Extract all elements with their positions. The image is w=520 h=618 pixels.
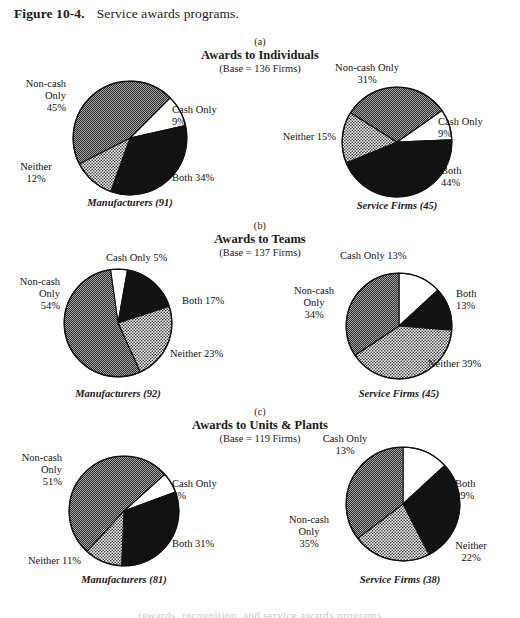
section-base-b: (Base = 137 Firms)	[0, 247, 520, 259]
section-title-b: Awards to Teams	[0, 232, 520, 247]
pie-svg-b-manufacturers	[63, 268, 173, 378]
pie-chart-a-manufacturers	[72, 80, 188, 196]
pie-label-c-man-noncash: Non-cashOnly51%	[2, 452, 62, 489]
figure-page: Figure 10-4.Service awards programs. (a)…	[0, 0, 520, 618]
pie-svg-a-manufacturers	[72, 80, 188, 196]
pie-caption-b-manufacturers: Manufacturers (92)	[48, 388, 188, 399]
pie-caption-a-manufacturers: Manufacturers (91)	[60, 197, 200, 208]
section-letter-c: (c)	[0, 406, 520, 418]
pie-chart-b-manufacturers	[63, 268, 173, 378]
pie-chart-c-manufacturers	[68, 455, 180, 567]
section-title-c: Awards to Units & Plants	[0, 418, 520, 433]
section-header-c: (c) Awards to Units & Plants (Base = 119…	[0, 406, 520, 445]
section-letter-a: (a)	[0, 36, 520, 48]
pie-label-a-svc-cash: Cash Only9%	[438, 116, 483, 140]
pie-label-c-svc-both: Both29%	[455, 478, 475, 502]
pie-label-c-man-both: Both 31%	[172, 538, 214, 550]
pie-caption-c-manufacturers: Manufacturers (81)	[54, 574, 194, 585]
pie-label-a-svc-both: Both44%	[441, 165, 461, 189]
pie-label-b-man-neither: Neither 23%	[170, 348, 223, 360]
pie-label-b-svc-both: Both13%	[456, 288, 476, 312]
pie-label-b-man-both: Both 17%	[182, 295, 224, 307]
pie-label-a-man-noncash: Non-cashOnly45%	[4, 78, 66, 115]
pie-label-b-man-cash: Cash Only 5%	[106, 252, 167, 264]
pie-label-a-man-neither: Neither12%	[8, 161, 64, 185]
pie-caption-a-service: Service Firms (45)	[327, 200, 467, 211]
pie-label-b-man-noncash: Non-cashOnly54%	[2, 276, 60, 313]
section-header-a: (a) Awards to Individuals (Base = 136 Fi…	[0, 36, 520, 75]
pie-label-a-man-cash: Cash Only9%	[172, 104, 217, 128]
pie-label-c-man-neither: Neither 11%	[28, 555, 81, 567]
section-base-a: (Base = 136 Firms)	[0, 63, 520, 75]
pie-label-b-svc-neither: Neither 39%	[428, 358, 481, 370]
pie-svg-c-manufacturers	[68, 455, 180, 567]
pie-label-a-man-both: Both 34%	[172, 172, 214, 184]
pie-chart-a-service	[341, 86, 453, 198]
pie-label-c-svc-neither: Neither22%	[440, 540, 502, 564]
pie-label-a-svc-neither: Neither 15%	[250, 131, 336, 143]
pie-svg-a-service	[341, 86, 453, 198]
figure-label: Figure 10-4.	[14, 6, 85, 21]
pie-label-b-svc-cash: Cash Only 13%	[340, 250, 407, 262]
figure-title: Service awards programs.	[97, 6, 239, 21]
pie-label-c-man-cash: Cash Only6%	[172, 478, 217, 502]
section-base-c: (Base = 119 Firms)	[0, 433, 520, 445]
pie-label-a-svc-noncash: Non-cash Only31%	[312, 62, 422, 86]
pie-label-c-svc-noncash: Non-cashOnly35%	[278, 514, 340, 551]
section-title-a: Awards to Individuals	[0, 48, 520, 63]
pie-caption-b-service: Service Firms (45)	[329, 388, 469, 399]
section-letter-b: (b)	[0, 220, 520, 232]
section-header-b: (b) Awards to Teams (Base = 137 Firms)	[0, 220, 520, 259]
pie-label-b-svc-noncash: Non-cashOnly34%	[285, 285, 343, 322]
pie-label-c-svc-cash: Cash Only13%	[312, 433, 378, 457]
pie-caption-c-service: Service Firms (38)	[330, 574, 470, 585]
page-bleed-text: rewards, recognition, and service awards…	[0, 609, 520, 618]
figure-caption: Figure 10-4.Service awards programs.	[14, 6, 239, 22]
